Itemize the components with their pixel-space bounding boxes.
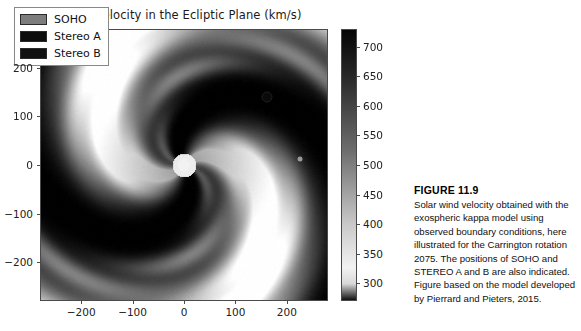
figure-caption: FIGURE 11.9 Solar wind velocity obtained…	[414, 184, 576, 305]
colorbar-tick-label: 350	[363, 248, 383, 260]
x-tick-label: 100	[225, 306, 245, 318]
y-tick-label: −100	[0, 208, 33, 220]
colorbar-tick-mark	[357, 283, 360, 284]
y-tick-label: 200	[0, 62, 33, 74]
y-tick-mark	[37, 165, 40, 166]
colorbar-tick-label: 700	[363, 41, 383, 53]
colorbar-tick-label: 550	[363, 129, 383, 141]
caption-heading: FIGURE 11.9	[414, 184, 576, 196]
x-tick-mark	[235, 301, 236, 304]
legend-swatch-stereo-a	[20, 31, 47, 42]
y-tick-mark	[37, 262, 40, 263]
colorbar-tick-mark	[357, 106, 360, 107]
marker-stereo-a	[262, 91, 273, 102]
legend-label-stereo-a: Stereo A	[54, 30, 101, 43]
colorbar-tick-label: 300	[363, 277, 383, 289]
x-tick-label: 200	[277, 306, 297, 318]
colorbar-tick-label: 450	[363, 189, 383, 201]
x-tick-label: 0	[181, 306, 188, 318]
y-tick-mark	[37, 214, 40, 215]
colorbar: 300350400450500550600650700	[341, 29, 357, 301]
x-tick-mark	[287, 301, 288, 304]
legend-label-stereo-b: Stereo B	[54, 47, 101, 60]
legend-swatch-stereo-b	[20, 48, 47, 59]
colorbar-tick-label: 600	[363, 100, 383, 112]
colorbar-tick-mark	[357, 254, 360, 255]
colorbar-gradient	[341, 29, 357, 301]
colorbar-tick-label: 500	[363, 159, 383, 171]
legend-item-stereo-b: Stereo B	[20, 46, 101, 61]
legend: SOHO Stereo A Stereo B	[14, 7, 109, 66]
colorbar-tick-label: 650	[363, 70, 383, 82]
legend-item-soho: SOHO	[20, 12, 101, 27]
colorbar-tick-label: 400	[363, 218, 383, 230]
x-tick-mark	[184, 301, 185, 304]
x-tick-mark	[133, 301, 134, 304]
plot-axes	[40, 29, 328, 301]
x-tick-label: −100	[118, 306, 147, 318]
legend-item-stereo-a: Stereo A	[20, 29, 101, 44]
caption-body: Solar wind velocity obtained with the ex…	[414, 198, 576, 305]
colorbar-tick-mark	[357, 195, 360, 196]
x-tick-label: −200	[67, 306, 96, 318]
colorbar-tick-mark	[357, 47, 360, 48]
y-tick-label: 100	[0, 110, 33, 122]
colorbar-tick-mark	[357, 76, 360, 77]
colorbar-tick-mark	[357, 135, 360, 136]
y-tick-label: −200	[0, 256, 33, 268]
colorbar-tick-mark	[357, 165, 360, 166]
colorbar-tick-mark	[357, 224, 360, 225]
y-tick-mark	[37, 116, 40, 117]
y-tick-label: 0	[0, 159, 33, 171]
figure-panel: Bulk velocity in the Ecliptic Plane (km/…	[0, 0, 400, 331]
sun-marker	[179, 160, 190, 171]
y-tick-mark	[37, 68, 40, 69]
marker-soho	[297, 156, 302, 161]
x-tick-mark	[81, 301, 82, 304]
legend-label-soho: SOHO	[54, 13, 87, 26]
legend-swatch-soho	[20, 14, 47, 25]
